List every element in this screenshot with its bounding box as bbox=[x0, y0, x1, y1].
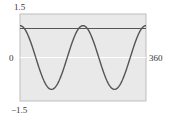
x-tick-right: 360 bbox=[149, 53, 163, 63]
y-tick-bottom: −1.5 bbox=[11, 105, 28, 115]
chart: 1.5 −1.5 0 360 bbox=[0, 0, 170, 117]
y-tick-top: 1.5 bbox=[14, 2, 26, 12]
x-tick-left: 0 bbox=[9, 53, 14, 63]
